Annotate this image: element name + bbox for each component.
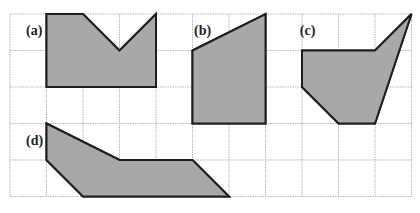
shapes bbox=[10, 14, 412, 197]
shape-c-label: (c) bbox=[300, 23, 316, 39]
shape-d-label: (d) bbox=[26, 133, 43, 149]
shape-b-label: (b) bbox=[194, 23, 211, 39]
shape-d-outline bbox=[47, 124, 230, 197]
shapes-grid-figure: (a)(b)(c)(d) bbox=[0, 0, 420, 213]
shape-a-outline bbox=[47, 14, 157, 87]
shape-c-outline bbox=[302, 14, 412, 124]
shape-a-label: (a) bbox=[26, 23, 43, 39]
